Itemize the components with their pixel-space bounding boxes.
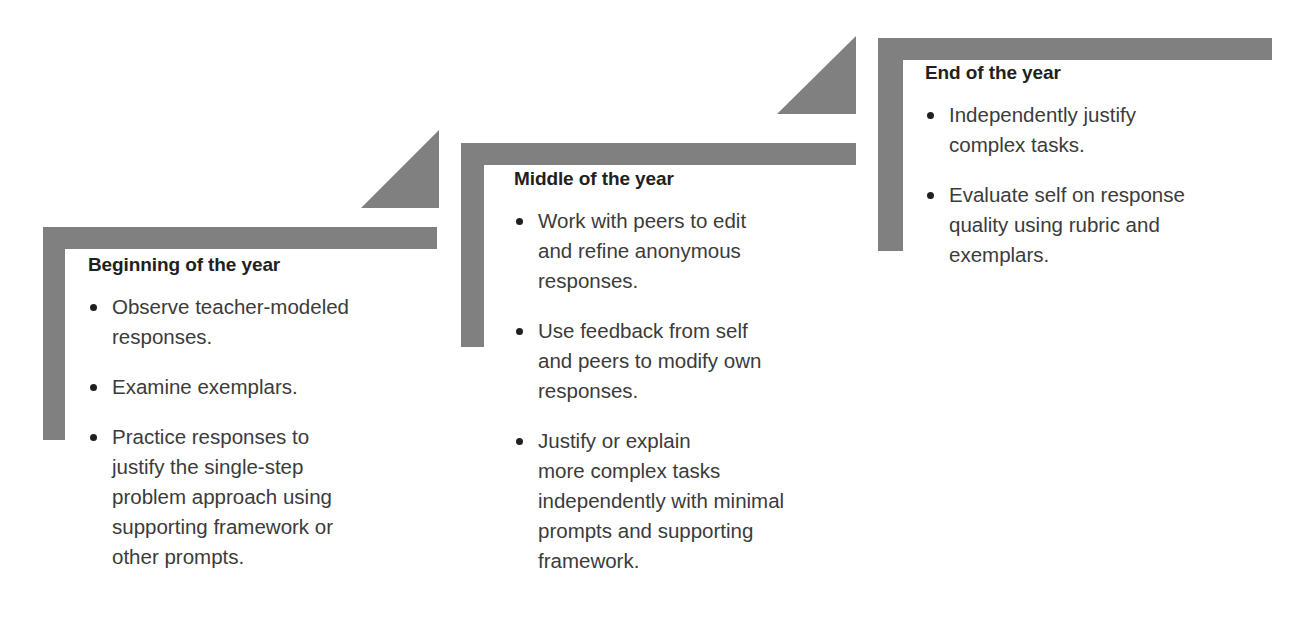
list-item: Justify or explain more complex tasks in… xyxy=(514,426,824,576)
bracket-top-bar-end xyxy=(878,38,1272,60)
stage-end-of-year: End of the year Independently justify co… xyxy=(925,62,1225,270)
list-item: Observe teacher-modeled responses. xyxy=(88,292,408,352)
bullet-text: Examine exemplars. xyxy=(112,372,408,402)
stage-end-of-year-bullet-list: Independently justify complex tasks. Eva… xyxy=(925,100,1225,270)
bracket-stem-beginning xyxy=(43,227,65,440)
bracket-stem-end xyxy=(878,38,903,251)
bullet-text: Practice responses to justify the single… xyxy=(112,422,408,572)
bullet-text: Work with peers to edit and refine anony… xyxy=(538,206,824,296)
stage-beginning-of-year-title: Beginning of the year xyxy=(88,254,408,276)
list-item: Independently justify complex tasks. xyxy=(925,100,1225,160)
stage-end-of-year-title: End of the year xyxy=(925,62,1225,84)
list-item: Work with peers to edit and refine anony… xyxy=(514,206,824,296)
list-item: Practice responses to justify the single… xyxy=(88,422,408,572)
connector-beginning-to-middle-arrow-icon xyxy=(361,130,439,208)
bullet-dot-icon xyxy=(90,384,97,391)
bullet-text: Observe teacher-modeled responses. xyxy=(112,292,408,352)
bullet-dot-icon xyxy=(90,304,97,311)
bullet-dot-icon xyxy=(927,192,934,199)
bullet-text: Independently justify complex tasks. xyxy=(949,100,1225,160)
bracket-top-bar-middle xyxy=(461,143,856,165)
stage-beginning-of-year-bullet-list: Observe teacher-modeled responses. Exami… xyxy=(88,292,408,572)
stage-middle-of-year-bullet-list: Work with peers to edit and refine anony… xyxy=(514,206,824,576)
bracket-top-bar-beginning xyxy=(43,227,437,249)
stage-beginning-of-year: Beginning of the year Observe teacher-mo… xyxy=(88,254,408,572)
list-item: Examine exemplars. xyxy=(88,372,408,402)
stage-middle-of-year: Middle of the year Work with peers to ed… xyxy=(514,168,824,576)
bullet-text: Justify or explain more complex tasks in… xyxy=(538,426,824,576)
bullet-dot-icon xyxy=(516,438,523,445)
bullet-dot-icon xyxy=(516,218,523,225)
list-item: Use feedback from self and peers to modi… xyxy=(514,316,824,406)
list-item: Evaluate self on response quality using … xyxy=(925,180,1225,270)
bullet-dot-icon xyxy=(927,112,934,119)
bullet-text: Evaluate self on response quality using … xyxy=(949,180,1225,270)
bullet-text: Use feedback from self and peers to modi… xyxy=(538,316,824,406)
connector-middle-to-end-arrow-icon xyxy=(777,36,856,114)
bracket-stem-middle xyxy=(461,143,484,347)
year-progression-diagram: End of the year Independently justify co… xyxy=(0,0,1316,619)
bullet-dot-icon xyxy=(516,328,523,335)
stage-middle-of-year-title: Middle of the year xyxy=(514,168,824,190)
bullet-dot-icon xyxy=(90,434,97,441)
